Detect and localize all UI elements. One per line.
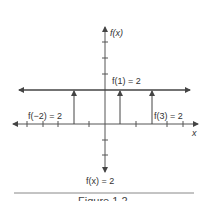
figure-caption: Figure 1.2: [78, 195, 128, 201]
y-axis: [102, 27, 108, 172]
function-label: f(x) = 2: [86, 176, 114, 186]
y-axis-label: f(x): [110, 28, 123, 38]
annotation-f-1: f(1) = 2: [112, 76, 141, 86]
x-axis-label: x: [191, 128, 197, 138]
value-arrows: [74, 91, 152, 124]
constant-function-diagram: f(x) x f(1) = 2 f(−2) = 2 f(3) = 2 f(x) …: [0, 0, 206, 201]
annotation-f-minus-2: f(−2) = 2: [28, 111, 62, 121]
annotation-f-3: f(3) = 2: [154, 111, 183, 121]
